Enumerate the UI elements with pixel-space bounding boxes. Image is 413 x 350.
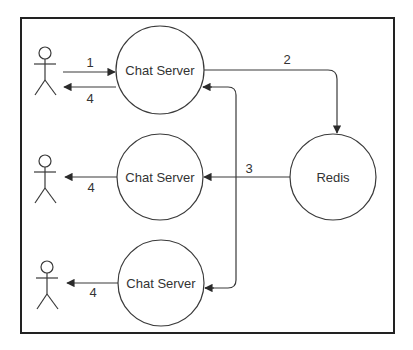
node-label: Chat Server bbox=[125, 63, 195, 78]
edge-label: 1 bbox=[86, 55, 93, 70]
edge-label: 3 bbox=[245, 161, 252, 176]
edge-label: 4 bbox=[86, 91, 93, 106]
node-chat-server-3: Chat Server bbox=[118, 240, 204, 326]
node-label: Chat Server bbox=[125, 170, 195, 185]
node-chat-server-2: Chat Server bbox=[117, 134, 203, 220]
edge-label: 4 bbox=[87, 180, 94, 195]
diagram-canvas: Chat Server Chat Server Chat Server Redi… bbox=[0, 0, 413, 350]
node-label: Redis bbox=[316, 170, 350, 185]
node-chat-server-1: Chat Server bbox=[116, 26, 204, 114]
node-label: Chat Server bbox=[126, 276, 196, 291]
edge-label: 2 bbox=[283, 52, 290, 67]
node-redis: Redis bbox=[290, 134, 376, 220]
edge-label: 4 bbox=[89, 285, 96, 300]
